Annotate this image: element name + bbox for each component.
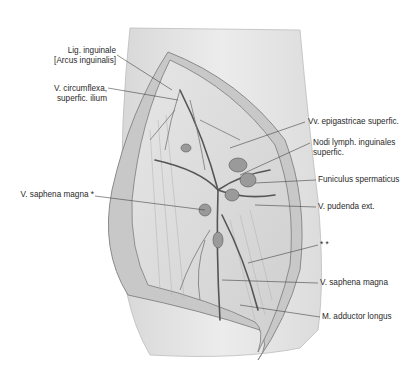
label-line: [Arcus inguinalis] [40, 56, 116, 66]
label-vv-epigastricae: Vv. epigastricae superfic. [308, 117, 399, 127]
label-line: Nodi lymph. inguinales [313, 138, 395, 148]
label-line: superfic. ilium [40, 94, 107, 104]
label-line: V. saphena magna [320, 278, 388, 288]
label-line: Vv. epigastricae superfic. [308, 117, 399, 127]
label-lig-inguinale: Lig. inguinale [Arcus inguinalis] [40, 46, 116, 66]
label-line: superfic. [313, 148, 395, 158]
label-funiculus: Funiculus spermaticus [318, 175, 399, 185]
label-v-circumflexa: V. circumflexa, superfic. ilium [40, 84, 107, 104]
label-line: Lig. inguinale [40, 46, 116, 56]
label-line: Funiculus spermaticus [318, 175, 399, 185]
label-v-pudenda: V. pudenda ext. [318, 202, 375, 212]
anatomical-figure: Lig. inguinale [Arcus inguinalis] V. cir… [0, 0, 420, 373]
label-m-adductor: M. adductor longus [322, 312, 392, 322]
label-line: M. adductor longus [322, 312, 392, 322]
label-v-saphena-magna: V. saphena magna [320, 278, 388, 288]
label-nodi-lymph: Nodi lymph. inguinales superfic. [313, 138, 395, 158]
label-line: V. saphena magna * [10, 190, 94, 200]
label-line: V. pudenda ext. [318, 202, 375, 212]
label-double-star: * * [320, 240, 329, 250]
label-v-saphena-magna-star: V. saphena magna * [10, 190, 94, 200]
label-line: V. circumflexa, [40, 84, 107, 94]
label-line: * * [320, 240, 329, 250]
